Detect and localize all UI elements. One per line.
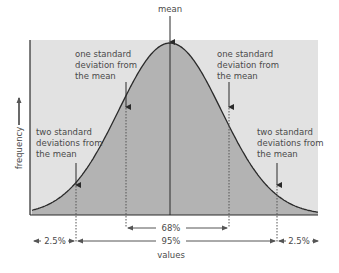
pct-68-label: 68%: [162, 223, 181, 233]
xlabel-values: values: [157, 250, 185, 260]
mean-label: mean: [158, 4, 182, 14]
normal-distribution-chart: mean one standard deviation from the mea…: [0, 0, 339, 273]
ylabel-frequency: frequency: [14, 127, 24, 170]
pct-right-tail-label: 2.5%: [288, 236, 310, 246]
pct-left-tail-label: 2.5%: [44, 236, 66, 246]
pct-95-label: 95%: [162, 236, 181, 246]
